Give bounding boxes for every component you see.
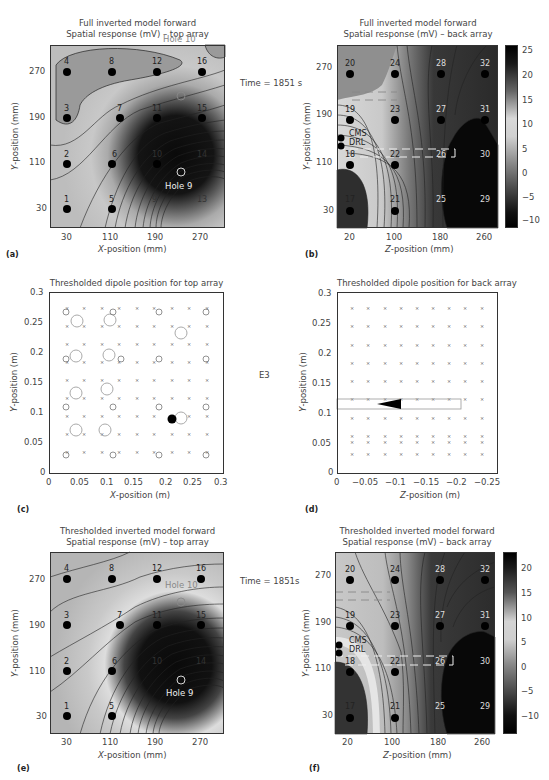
x-tick: 100 (386, 232, 402, 242)
x-tick: 180 (432, 232, 448, 242)
y-tick: 0.3 (30, 287, 44, 297)
y-tick: 0.05 (312, 438, 331, 448)
x-tick: 20 (344, 232, 355, 242)
x-tick: 0.2 (159, 477, 173, 487)
x-tick: 0.05 (70, 477, 89, 487)
colorbar-tick: 0 (522, 168, 527, 178)
panel-c-axes (49, 292, 224, 474)
x-tick: 0.25 (183, 477, 202, 487)
panel-a-axes (50, 45, 225, 228)
y-axis-label: Y-position (mm) (10, 101, 20, 171)
x-tick: 30 (61, 737, 72, 747)
event-label: E3 (259, 370, 270, 380)
colorbar-tick: 20 (522, 70, 533, 80)
y-tick: 0.2 (318, 348, 332, 358)
colorbar-tick: −5 (522, 192, 535, 202)
y-tick: 270 (29, 66, 45, 76)
x-tick: −0.05 (352, 477, 378, 487)
y-tick: 0 (328, 467, 333, 477)
title-line2: Spatial response (mV) – top array (50, 537, 225, 548)
x-tick: 110 (102, 737, 118, 747)
y-tick: 0.3 (318, 288, 332, 298)
y-tick: 270 (315, 570, 331, 580)
panel-e-axes (50, 552, 224, 734)
x-tick: 190 (147, 232, 163, 242)
title-line2: Spatial response (mV) – back array (337, 29, 499, 40)
x-tick: 30 (61, 232, 72, 242)
colorbar-tick: 15 (522, 95, 533, 105)
panel-c-title: Thresholded dipole position for top arra… (49, 278, 224, 289)
x-tick: −0.1 (385, 477, 406, 487)
y-tick: 0.05 (24, 437, 43, 447)
panel-d-axes (337, 292, 498, 474)
hole-9-label: Hole 9 (165, 181, 192, 191)
y-tick: 0.2 (30, 347, 44, 357)
x-tick: 0.1 (100, 477, 114, 487)
y-tick: 0 (40, 467, 45, 477)
x-tick: 0.3 (214, 477, 228, 487)
y-axis-label: Y-position (mm) (302, 101, 312, 171)
y-tick: 30 (323, 205, 334, 215)
y-tick: 0.25 (24, 317, 43, 327)
y-tick: 110 (29, 666, 45, 676)
x-tick: 180 (430, 737, 446, 747)
colorbar-tick: 0 (521, 662, 526, 672)
y-tick: 110 (315, 663, 331, 673)
x-tick: 20 (342, 737, 353, 747)
colorbar-tick: 5 (522, 144, 527, 154)
y-tick: 270 (29, 574, 45, 584)
panel-d-title: Thresholded dipole position for back arr… (337, 278, 499, 289)
panel-label-b: (b) (305, 250, 318, 259)
colorbar-tick: 15 (521, 588, 532, 598)
x-axis-label: X-position (mm) (98, 244, 166, 254)
title-line2: Spatial response (mV) – top array (50, 29, 225, 40)
panel-label-f: (f) (309, 764, 320, 773)
panel-label-a: (a) (6, 250, 19, 259)
y-axis-label: Y-position (m) (298, 347, 308, 417)
x-axis-label: Z-position (mm) (383, 750, 451, 760)
title-line1: Full inverted model forward (50, 18, 225, 29)
x-tick: −0.2 (446, 477, 467, 487)
x-axis-label: X-position (m) (110, 490, 170, 500)
x-tick: 110 (102, 232, 118, 242)
y-axis-label: Y-position (mm) (301, 608, 311, 678)
x-tick: −0.15 (413, 477, 439, 487)
x-tick: −0.25 (474, 477, 500, 487)
y-tick: 0.15 (312, 378, 331, 388)
colorbar-tick: 25 (522, 45, 533, 55)
y-tick: 110 (29, 157, 45, 167)
panel-label-d: (d) (305, 505, 318, 514)
title-line2: Spatial response (mV) – back array (337, 537, 497, 548)
colorbar-tick: −10 (521, 711, 539, 721)
colorbar-tick: 10 (521, 613, 532, 623)
x-tick: 270 (192, 737, 208, 747)
y-tick: 270 (316, 62, 332, 72)
y-axis-label: Y-position (mm) (10, 608, 20, 678)
y-tick: 190 (316, 109, 332, 119)
colorbar-tick: 5 (521, 637, 526, 647)
panel-label-e: (e) (17, 764, 30, 773)
x-tick: 260 (474, 737, 490, 747)
y-tick: 30 (36, 203, 47, 213)
title-line1: Full inverted model forward (337, 18, 499, 29)
y-tick: 190 (315, 617, 331, 627)
x-tick: 270 (192, 232, 208, 242)
panel-f-axes (335, 552, 495, 734)
y-tick: 110 (316, 157, 332, 167)
colorbar-tick: 10 (522, 119, 533, 129)
title-line1: Thresholded inverted model forward (337, 526, 497, 537)
y-tick: 0.1 (318, 408, 332, 418)
x-axis-label: Z-position (m) (400, 490, 460, 500)
x-tick: 0 (46, 477, 51, 487)
x-tick: 260 (476, 232, 492, 242)
y-tick: 0.1 (30, 407, 44, 417)
panel-b-axes (337, 45, 498, 228)
colorbar-tick: 20 (521, 563, 532, 573)
colorbar-b (505, 45, 518, 228)
colorbar-tick: −5 (521, 686, 534, 696)
y-tick: 0.15 (24, 377, 43, 387)
y-tick: 190 (29, 112, 45, 122)
y-tick: 30 (322, 710, 333, 720)
y-tick: 190 (29, 620, 45, 630)
y-tick: 30 (36, 711, 47, 721)
